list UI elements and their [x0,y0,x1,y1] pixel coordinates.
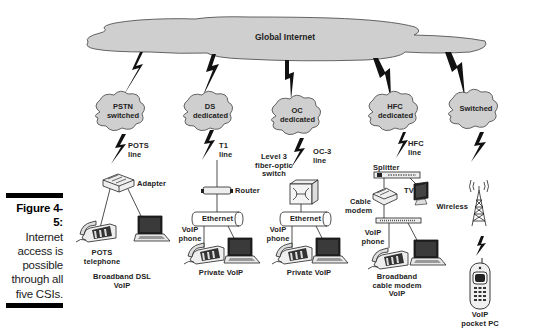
adapter-cables [100,189,142,228]
label-line: phone [178,235,202,244]
t1-line-label: T1 line [219,142,232,159]
cloud-label-line: OC [280,106,314,115]
wireless-tower-icon [470,180,489,226]
cloud-label-line: switched [106,111,140,120]
cable-modem-device [373,188,397,205]
oc-cloud-label: OC dedicated [280,106,314,124]
caption-line: through all [8,272,63,286]
ds-cloud-label: DS dedicated [193,102,227,120]
service-broadband-cable-modem-voip: Broadband cable modem VoIP [372,273,422,299]
caption-line: Internet [8,230,63,244]
laptop-icon [410,240,446,265]
label-line: line [128,151,149,160]
fiber-optic-switch-label: Level 3 fiber-optic switch [254,153,294,179]
service-private-voip: Private VoIP [284,269,334,278]
voip-phone-icon [272,243,312,264]
router-label: Router [235,187,260,196]
switched-cloud-label: Switched [456,104,496,113]
ethernet-label: Ethernet [284,215,327,224]
voip-phone-label: VoIP phone [178,226,202,243]
pots-telephone-icon [76,221,116,242]
splitter-device [374,172,420,178]
laptop-icon [134,216,170,241]
adapter-label: Adapter [137,180,166,189]
label-line: switch [254,170,294,179]
router-device [201,187,233,194]
pots-telephone-label: POTS telephone [82,249,122,266]
label-line: VoIP [92,282,152,291]
label-line: line [219,151,232,160]
cloud-label-line: dedicated [193,111,227,120]
splitter-label: Splitter [373,164,400,173]
global-internet-label: Global Internet [255,33,315,42]
caption-bottom-rule [6,303,63,308]
wireless-label: Wireless [432,203,468,212]
service-private-voip: Private VoIP [196,269,246,278]
voip-phone-icon [184,243,224,264]
oc3-line-label: OC-3 line [313,148,331,165]
fiber-optic-switch [290,180,318,204]
pstn-cloud-label: PSTN switched [106,102,140,120]
network-hub [376,218,421,223]
service-broadband-dsl-voip: Broadband DSL VoIP [92,273,152,290]
pocket-pc-icon [470,258,490,309]
cloud-label-line: DS [193,102,227,111]
figure-caption: Figure 4-5: Internet access is possible … [8,201,63,301]
label-line: line [313,157,331,166]
label-line: VoIP [372,290,422,299]
adapter-device [103,174,134,192]
label-line: telephone [82,258,122,267]
hfc-line-label: HFC line [408,140,424,157]
caption-top-rule [6,193,63,198]
figure-number: Figure 4-5: [8,201,63,230]
label-line: phone [266,235,290,244]
voip-phone-label: VoIP phone [361,229,385,246]
cable-modem-label: Cable modem [345,198,371,215]
tv-icon [414,182,428,205]
laptop-icon [224,238,260,263]
hfc-cloud-label: HFC dedicated [378,102,412,120]
ethernet-label: Ethernet [196,215,239,224]
caption-line: access is [8,244,63,258]
cloud-label-line: PSTN [106,102,140,111]
laptop-icon [312,238,348,263]
label-line: pocket PC [458,320,502,329]
caption-line: possible [8,258,63,272]
cloud-label-line: dedicated [378,111,412,120]
tv-label: TV [404,187,414,196]
service-voip-pocket-pc: VoIP pocket PC [458,311,502,328]
label-line: phone [361,238,385,247]
caption-line: five CSIs. [8,287,63,301]
cloud-label-line: HFC [378,102,412,111]
internet-access-diagram: Global Internet PSTN switched POTS line … [0,0,538,329]
label-line: line [408,149,424,158]
label-line: modem [345,207,371,216]
voip-phone-label: VoIP phone [266,226,290,243]
pots-line-label: POTS line [128,142,149,159]
voip-phone-icon [368,248,408,269]
cloud-label-line: dedicated [280,115,314,124]
